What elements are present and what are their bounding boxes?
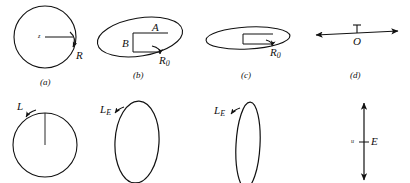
caption-b: (b) bbox=[133, 71, 144, 80]
panel-d-drawing bbox=[316, 25, 398, 35]
label-LE-g-sub: E bbox=[220, 109, 225, 118]
label-LE-f-sub: E bbox=[106, 108, 111, 117]
label-A-b: A bbox=[152, 22, 159, 33]
label-radius-R-a: R bbox=[76, 50, 83, 61]
ellipse-outline-g bbox=[234, 101, 262, 183]
label-L-e: L bbox=[17, 101, 23, 112]
label-tick-u-h: u bbox=[351, 138, 354, 144]
label-center-z-a: z bbox=[38, 33, 40, 39]
panel-f-drawing bbox=[113, 100, 161, 183]
panel-b-drawing bbox=[95, 12, 186, 63]
figure-drawing-layer bbox=[0, 0, 410, 183]
label-energy-E-h: E bbox=[371, 136, 378, 147]
panel-g-drawing bbox=[231, 101, 262, 183]
label-LE-g: LE bbox=[214, 105, 225, 118]
label-radius-R0-b-base: R bbox=[159, 54, 166, 66]
radius-arrow-a bbox=[70, 32, 74, 47]
notch-path-c bbox=[243, 34, 273, 44]
caption-a: (a) bbox=[40, 78, 51, 87]
label-radius-R0-c-base: R bbox=[270, 46, 277, 58]
caption-c: (c) bbox=[241, 71, 251, 80]
label-origin-O-d: O bbox=[353, 36, 361, 47]
label-radius-R0-c: R0 bbox=[270, 47, 281, 60]
ellipse-outline-f bbox=[113, 100, 161, 183]
label-radius-R0-b-sub: 0 bbox=[166, 59, 170, 68]
label-LE-f: LE bbox=[100, 104, 111, 117]
caption-d: (d) bbox=[350, 71, 361, 80]
label-radius-R0-b: R0 bbox=[159, 55, 170, 68]
panel-e-drawing bbox=[13, 110, 77, 177]
angular-momentum-arrow-g bbox=[231, 108, 240, 114]
panel-a-drawing bbox=[14, 6, 76, 68]
label-B-b: B bbox=[122, 38, 129, 49]
ellipse-outline-b bbox=[95, 12, 186, 63]
notch-path-b bbox=[133, 33, 168, 52]
panel-h-drawing bbox=[359, 103, 369, 180]
label-radius-R0-c-sub: 0 bbox=[277, 51, 281, 60]
physics-figure: z R (a) A B R0 (b) R0 (c) O (d) L LE LE … bbox=[0, 0, 410, 183]
